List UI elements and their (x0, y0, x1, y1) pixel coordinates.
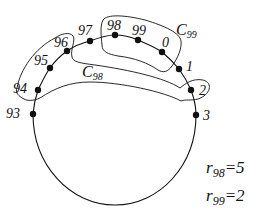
node-dot-2 (188, 87, 194, 93)
node-dot-93 (30, 111, 36, 117)
node-dot-97 (87, 38, 93, 44)
node-label-99: 99 (132, 24, 146, 38)
equation-r99: r99=2 (206, 187, 245, 207)
cluster-c98-name: C (82, 63, 93, 80)
equation-r99-var: r (206, 186, 213, 205)
equation-r99-subscript: 99 (213, 194, 225, 208)
node-label-1: 1 (186, 60, 193, 74)
node-label-0: 0 (162, 36, 169, 50)
node-label-96: 96 (54, 36, 68, 50)
node-label-97: 97 (78, 24, 92, 38)
cluster-c98-subscript: 98 (93, 71, 103, 82)
cluster-label-c98: C98 (82, 64, 103, 82)
equation-r98-var: r (206, 158, 213, 177)
node-label-94: 94 (13, 82, 27, 96)
diagram-canvas (0, 0, 262, 215)
ring-diagram: 93 94 95 96 97 98 99 0 1 2 3 C98 C99 r98… (0, 0, 262, 215)
equation-r98: r98=5 (206, 159, 245, 179)
node-dot-1 (176, 66, 182, 72)
node-label-95: 95 (34, 54, 48, 68)
cluster-label-c99: C99 (176, 22, 197, 40)
node-label-98: 98 (107, 19, 121, 33)
equation-r99-value: =2 (225, 186, 245, 205)
node-label-2: 2 (199, 84, 206, 98)
cluster-c99-subscript: 99 (187, 29, 197, 40)
node-label-3: 3 (203, 109, 210, 123)
cluster-c99-name: C (176, 21, 187, 38)
node-label-93: 93 (6, 107, 20, 121)
equation-r98-subscript: 98 (213, 166, 225, 180)
equation-r98-value: =5 (225, 158, 245, 177)
node-dot-3 (193, 112, 199, 118)
node-dot-94 (35, 87, 41, 93)
ring-circle (33, 35, 196, 205)
